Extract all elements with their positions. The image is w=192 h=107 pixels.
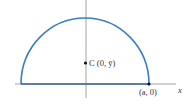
centroid-point [84,61,87,64]
x-axis-label: x [177,85,182,95]
endpoint-label: (a, 0) [139,87,157,97]
diagram-canvas: C (0, ȳ) (a, 0) x [0,0,192,107]
endpoint-point [147,82,150,85]
semicircle-arc [21,18,149,84]
centroid-label: C (0, ȳ) [89,58,115,68]
